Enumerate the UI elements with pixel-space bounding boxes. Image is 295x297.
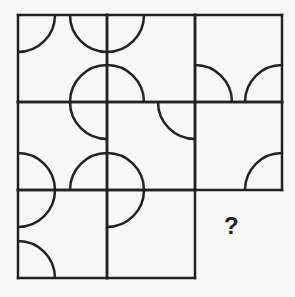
puzzle-grid: [0, 0, 295, 297]
quarter-arc-r0c0: [70, 15, 107, 52]
quarter-arc-r1c0: [70, 102, 107, 139]
quarter-arc-r0c2: [245, 65, 282, 102]
quarter-arc-r1c1: [107, 153, 144, 190]
quarter-arc-r1c0: [70, 153, 107, 190]
quarter-arc-r1c0: [18, 153, 55, 190]
quarter-arc-r1c2: [245, 153, 282, 190]
quarter-arc-r2c1: [107, 190, 144, 227]
grid-lines: [18, 15, 282, 278]
missing-cell-question-mark: ?: [224, 212, 239, 240]
quarter-circle-arcs: [18, 15, 282, 278]
quarter-arc-r0c1: [107, 65, 144, 102]
quarter-arc-r2c0: [18, 241, 55, 278]
quarter-arc-r2c0: [18, 190, 55, 227]
quarter-arc-r0c2: [195, 65, 232, 102]
quarter-arc-r0c0: [70, 65, 107, 102]
quarter-arc-r1c1: [158, 102, 195, 139]
quarter-arc-r0c0: [18, 15, 55, 52]
quarter-arc-r0c1: [107, 15, 144, 52]
